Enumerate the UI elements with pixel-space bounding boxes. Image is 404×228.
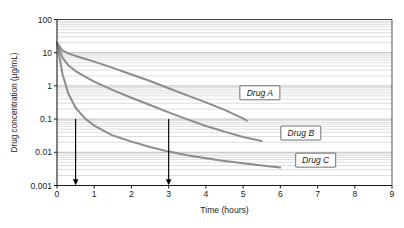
curve-label-text: Drug C [302, 155, 330, 165]
y-axis-title: Drug concentration (µg/mL) [10, 52, 19, 152]
chart-background [0, 0, 404, 228]
y-tick-label: 10 [42, 48, 52, 58]
x-tick-label: 5 [241, 189, 246, 199]
x-tick-label: 7 [315, 189, 320, 199]
semilog-pharmacokinetics-chart: 1001010.10.010.001 0123456789 Time (hour… [0, 0, 404, 228]
curve-label-drug-c: Drug C [296, 153, 336, 167]
y-tick-label: 0.001 [30, 181, 52, 191]
y-tick-label: 0.01 [35, 147, 52, 157]
x-tick-label: 3 [166, 189, 171, 199]
y-tick-label: 0.1 [40, 114, 52, 124]
x-axis-title: Time (hours) [200, 205, 249, 215]
y-tick-label: 1 [47, 81, 52, 91]
chart-figure: 1001010.10.010.001 0123456789 Time (hour… [0, 0, 404, 228]
x-tick-label: 4 [203, 189, 208, 199]
curve-label-text: Drug A [247, 88, 274, 98]
y-tick-label: 100 [38, 15, 53, 25]
x-tick-label: 1 [92, 189, 97, 199]
x-tick-label: 0 [55, 189, 60, 199]
x-tick-label: 9 [390, 189, 395, 199]
x-tick-label: 8 [352, 189, 357, 199]
x-tick-label: 6 [278, 189, 283, 199]
curve-label-drug-b: Drug B [281, 126, 321, 140]
curve-label-drug-a: Drug A [240, 86, 280, 100]
curve-label-text: Drug B [287, 128, 314, 138]
x-tick-label: 2 [129, 189, 134, 199]
